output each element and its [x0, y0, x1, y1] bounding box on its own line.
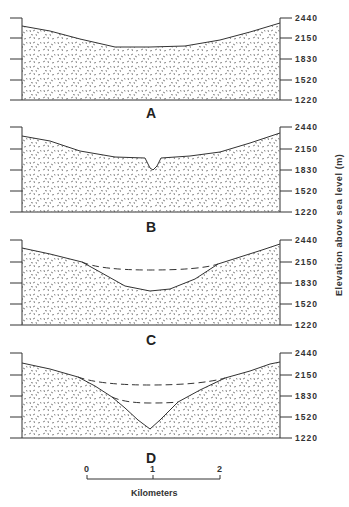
tick-label-2150: 2150 — [295, 257, 318, 267]
tick-label-2440: 2440 — [295, 348, 318, 358]
tick-label-1520: 1520 — [295, 299, 318, 309]
former-surface-lower-dashed-line — [112, 397, 178, 403]
tick-label-1220: 1220 — [295, 207, 318, 217]
former-surface-dashed-line — [82, 262, 218, 270]
tick-label-1830: 1830 — [295, 165, 318, 175]
panel-label-c: C — [146, 332, 156, 348]
tick-label-1520: 1520 — [295, 75, 318, 85]
scale-unit-label: Kilometers — [131, 488, 178, 498]
tick-label-2150: 2150 — [295, 144, 318, 154]
former-surface-upper-dashed-line — [78, 377, 225, 385]
tick-label-1520: 1520 — [295, 186, 318, 196]
panel-d: 2440 2150 1830 1520 1220 D — [10, 348, 318, 466]
elevation-tick-labels: 2440 2150 1830 1520 1220 — [295, 122, 318, 217]
panel-a: 2440 2150 1830 1520 1220 A — [10, 13, 318, 121]
valley-evolution-diagram: 2440 2150 1830 1520 1220 A 2440 2150 — [0, 0, 349, 507]
panel-label-a: A — [146, 105, 156, 121]
scale-bar: 0 1 2 Kilometers — [84, 464, 222, 498]
scale-tick-1: 1 — [150, 464, 155, 474]
tick-label-2440: 2440 — [295, 13, 318, 23]
tick-label-1830: 1830 — [295, 391, 318, 401]
elevation-tick-labels: 2440 2150 1830 1520 1220 — [295, 348, 318, 443]
elevation-tick-labels: 2440 2150 1830 1520 1220 — [295, 235, 318, 330]
tick-label-1220: 1220 — [295, 320, 318, 330]
tick-label-2150: 2150 — [295, 33, 318, 43]
tick-label-1830: 1830 — [295, 278, 318, 288]
tick-label-1830: 1830 — [295, 54, 318, 64]
y-axis-title: Elevation above sea level (m) — [334, 154, 344, 296]
panel-label-b: B — [146, 219, 156, 235]
tick-label-2440: 2440 — [295, 122, 318, 132]
panel-c: 2440 2150 1830 1520 1220 C — [10, 235, 318, 348]
panel-b: 2440 2150 1830 1520 1220 B — [10, 122, 318, 235]
scale-tick-0: 0 — [84, 464, 89, 474]
tick-label-2150: 2150 — [295, 370, 318, 380]
elevation-tick-labels: 2440 2150 1830 1520 1220 — [295, 13, 318, 105]
tick-label-2440: 2440 — [295, 235, 318, 245]
tick-label-1220: 1220 — [295, 433, 318, 443]
tick-label-1220: 1220 — [295, 95, 318, 105]
tick-label-1520: 1520 — [295, 412, 318, 422]
scale-tick-2: 2 — [217, 464, 222, 474]
